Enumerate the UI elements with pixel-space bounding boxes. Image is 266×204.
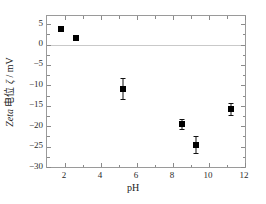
x-axis-tick <box>209 163 210 167</box>
y-axis-tick-right <box>241 167 245 168</box>
y-axis-minor-tick <box>47 136 50 137</box>
y-axis-minor-tick <box>47 55 50 56</box>
y-axis-tick-label: −10 <box>29 80 43 89</box>
y-title-chinese: 电位 <box>4 84 15 107</box>
y-axis-minor-tick <box>47 116 50 117</box>
y-axis-tick-label: −15 <box>29 100 43 109</box>
x-axis-title: pH <box>0 182 266 194</box>
x-axis-tick <box>245 163 246 167</box>
y-axis-minor-tick <box>47 157 50 158</box>
error-bar-cap-lower <box>228 115 233 116</box>
error-bar-cap-lower <box>194 153 199 154</box>
y-title-latin: Zeta <box>4 106 15 126</box>
error-bar-cap-upper <box>194 136 199 137</box>
y-axis-tick <box>47 106 51 107</box>
plot-area <box>46 15 246 168</box>
x-axis-minor-tick <box>155 165 156 168</box>
data-point <box>117 83 129 95</box>
y-axis-tick <box>47 126 51 127</box>
y-axis-tick-label: −30 <box>29 162 43 171</box>
x-axis-tick <box>137 163 138 167</box>
y-axis-tick <box>47 65 51 66</box>
y-axis-minor-tick <box>243 55 246 56</box>
x-axis-minor-tick <box>119 165 120 168</box>
data-point-marker <box>228 106 234 112</box>
x-axis-minor-tick <box>83 16 84 19</box>
x-axis-tick-top <box>101 16 102 20</box>
y-axis-minor-tick <box>47 96 50 97</box>
x-axis-tick-label: 4 <box>98 170 103 180</box>
y-axis-tick-right <box>241 106 245 107</box>
error-bar-cap-upper <box>120 78 125 79</box>
y-axis-tick-right <box>241 45 245 46</box>
y-axis-minor-tick <box>243 136 246 137</box>
y-axis-minor-tick <box>243 116 246 117</box>
y-axis-tick-right <box>241 126 245 127</box>
x-axis-minor-tick <box>227 165 228 168</box>
y-axis-minor-tick <box>47 75 50 76</box>
x-axis-tick-top <box>173 16 174 20</box>
y-axis-tick <box>47 85 51 86</box>
x-axis-tick <box>173 163 174 167</box>
x-axis-tick-labels: 24681012 <box>46 170 246 182</box>
x-axis-tick-top <box>209 16 210 20</box>
x-axis-tick-label: 10 <box>204 170 213 180</box>
data-point-marker <box>120 86 126 92</box>
data-point <box>176 118 188 130</box>
x-axis-tick-top <box>137 16 138 20</box>
x-axis-minor-tick <box>83 165 84 168</box>
x-axis-tick-label: 12 <box>240 170 249 180</box>
y-axis-minor-tick <box>243 34 246 35</box>
y-axis-tick-label: −20 <box>29 121 43 130</box>
y-axis-title-container: Zeta 电位 ζ / mV <box>2 15 18 168</box>
x-axis-tick <box>65 163 66 167</box>
x-axis-tick <box>101 163 102 167</box>
x-axis-tick-label: 6 <box>134 170 139 180</box>
y-title-separator: / <box>4 72 15 77</box>
y-axis-tick-labels: 50−5−10−15−20−25−30 <box>20 15 43 168</box>
y-axis-tick-label: −25 <box>29 141 43 150</box>
y-axis-tick <box>47 167 51 168</box>
y-title-unit: mV <box>4 57 15 72</box>
y-title-symbol: ζ <box>4 77 15 84</box>
data-point-marker <box>179 121 185 127</box>
y-axis-tick-right <box>241 24 245 25</box>
x-axis-minor-tick <box>191 16 192 19</box>
error-bar-cap-upper <box>228 103 233 104</box>
y-axis-minor-tick <box>243 75 246 76</box>
y-axis-tick-label: −5 <box>33 59 43 68</box>
x-axis-tick-label: 2 <box>62 170 67 180</box>
x-axis-tick-label: 8 <box>170 170 175 180</box>
data-point-marker <box>58 26 64 32</box>
y-axis-minor-tick <box>243 96 246 97</box>
y-axis-tick <box>47 45 51 46</box>
error-bar-cap-lower <box>180 129 185 130</box>
x-axis-minor-tick <box>191 165 192 168</box>
y-axis-tick-right <box>241 85 245 86</box>
y-axis-tick-label: 0 <box>39 39 44 48</box>
x-axis-tick-top <box>65 16 66 20</box>
data-point <box>190 139 202 151</box>
zero-reference-line <box>47 45 245 46</box>
data-point <box>55 23 67 35</box>
y-axis-tick-right <box>241 65 245 66</box>
error-bar-cap-lower <box>120 99 125 100</box>
x-axis-tick-top <box>245 16 246 20</box>
data-point <box>70 32 82 44</box>
data-point <box>225 103 237 115</box>
zeta-potential-chart: Zeta 电位 ζ / mV 50−5−10−15−20−25−30 24681… <box>0 0 266 204</box>
x-axis-minor-tick <box>119 16 120 19</box>
data-point-marker <box>193 142 199 148</box>
y-axis-tick <box>47 147 51 148</box>
y-axis-tick-label: 5 <box>39 19 44 28</box>
y-axis-title: Zeta 电位 ζ / mV <box>4 57 16 127</box>
y-axis-tick <box>47 24 51 25</box>
y-axis-minor-tick <box>243 157 246 158</box>
error-bar-cap-upper <box>180 119 185 120</box>
x-axis-minor-tick <box>227 16 228 19</box>
x-axis-minor-tick <box>155 16 156 19</box>
data-point-marker <box>73 35 79 41</box>
y-axis-minor-tick <box>47 34 50 35</box>
y-axis-tick-right <box>241 147 245 148</box>
